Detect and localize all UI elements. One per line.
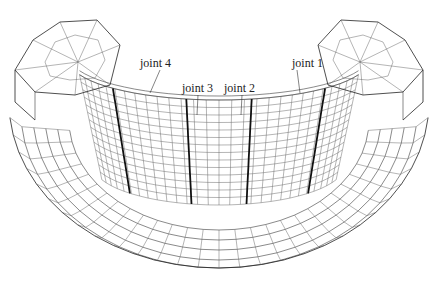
label-joint-2: joint 2	[224, 82, 255, 94]
cap-ring	[333, 35, 393, 80]
cap-spoke	[360, 40, 405, 62]
mesh-radial	[320, 201, 360, 227]
wall-top-rim	[80, 71, 359, 96]
mesh-radial	[78, 201, 118, 227]
mesh-drawing	[0, 0, 438, 285]
wall-vertical	[85, 78, 107, 183]
wall-vertical	[298, 91, 313, 196]
mesh-radial	[62, 193, 107, 216]
mesh-radial	[295, 215, 325, 247]
mesh-radial	[197, 229, 203, 267]
cap-spoke	[75, 62, 78, 95]
label-joint-4: joint 4	[140, 57, 171, 69]
mesh-radial	[113, 215, 143, 247]
joint-leader-line	[241, 95, 242, 115]
mesh-radial	[154, 225, 173, 261]
mesh-radial	[331, 193, 376, 216]
cap-spoke	[78, 62, 110, 85]
mesh-radial	[266, 225, 285, 261]
wall-vertical	[124, 91, 139, 196]
wall-vertical	[332, 78, 354, 183]
cap-spoke	[360, 62, 363, 95]
mesh-radial	[13, 135, 72, 143]
mesh-radial	[362, 152, 419, 159]
mesh-radial	[366, 135, 425, 143]
joint-leader-line	[150, 70, 160, 93]
fem-mesh-diagram: joint 4 joint 3 joint 2 joint 1	[0, 0, 438, 285]
wall-vertical	[115, 89, 132, 194]
label-joint-1: joint 1	[292, 57, 323, 69]
mesh-radial	[10, 118, 70, 131]
cap-spoke	[328, 62, 360, 85]
cap-spoke	[60, 22, 78, 62]
wall-vertical	[327, 81, 348, 186]
joint-leader-line	[197, 95, 198, 115]
cap-side	[15, 70, 35, 120]
cap-spoke	[33, 40, 78, 62]
cap-side	[403, 70, 423, 120]
joint-leader-line	[297, 70, 300, 93]
wall-vertical	[307, 89, 324, 194]
cap-spoke	[360, 22, 378, 62]
wall-vertical	[91, 81, 112, 186]
mesh-radial	[368, 118, 428, 131]
cap-ring	[45, 35, 105, 80]
mesh-radial	[19, 152, 76, 159]
label-joint-3: joint 3	[182, 82, 213, 94]
mesh-radial	[235, 229, 241, 267]
